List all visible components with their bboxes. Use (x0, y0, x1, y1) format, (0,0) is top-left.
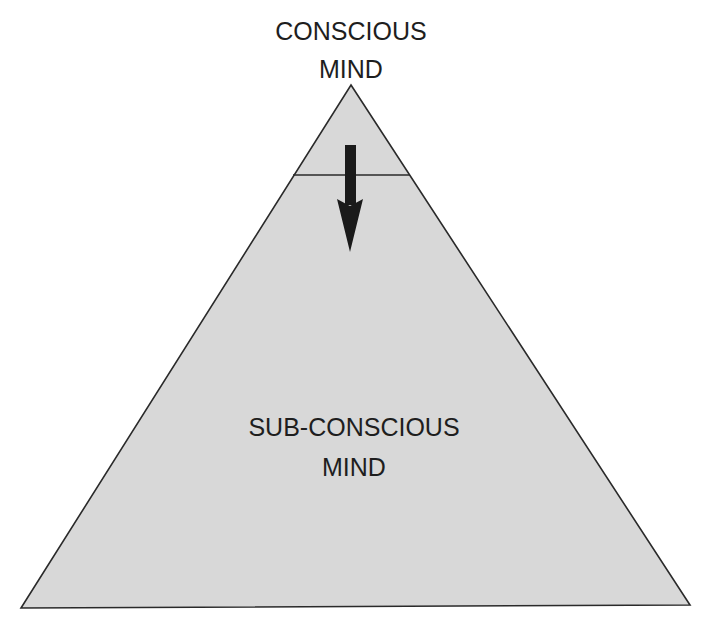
conscious-label-line2: MIND (201, 57, 501, 82)
conscious-label-line1: CONSCIOUS (201, 19, 501, 44)
mind-pyramid-diagram: CONSCIOUS MIND SUB-CONSCIOUS MIND (0, 0, 711, 631)
subconscious-label-line1: SUB-CONSCIOUS (204, 415, 504, 440)
subconscious-label-line2: MIND (204, 455, 504, 480)
pyramid-graphic (0, 0, 711, 631)
